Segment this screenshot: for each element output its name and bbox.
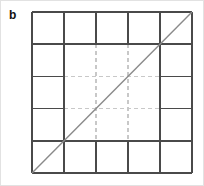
figure-panel: b [0,0,204,186]
diagonal-line [32,12,192,173]
panel-label: b [9,9,16,21]
grid-figure [32,12,192,173]
diagonal-stroke [32,12,192,173]
grid-svg [32,12,192,173]
